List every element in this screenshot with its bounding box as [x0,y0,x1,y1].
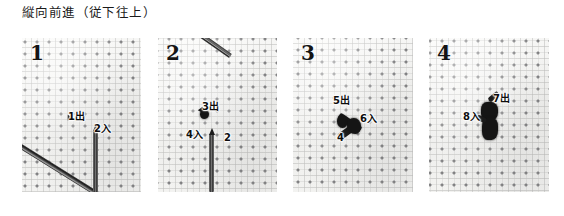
stitch-thread-mass [347,118,361,134]
callout-6-in: 6入 [360,114,377,124]
panel-number-1: 1 [30,43,44,63]
callout-3-out: 3出 [202,102,219,112]
callout-2-ref: 2 [224,133,231,143]
callout-1-out: 1出 [68,112,85,122]
callout-4-in: 4入 [186,130,203,140]
callout-4-ref: 4 [337,133,344,143]
needle-vertical-tip [209,128,215,135]
panel-number-2: 2 [166,43,180,63]
photo-panel-3: 3 5出 6入 4 [293,38,413,192]
panel-strip: 1 1出 2入 2 3出 4入 2 3 5出 6入 4 [0,0,564,216]
photo-panel-1: 1 1出 2入 [22,38,141,192]
panel-number-4: 4 [437,43,451,63]
panel-number-3: 3 [301,43,315,63]
needle-vertical [93,130,98,192]
needle-vertical [209,134,214,192]
callout-5-out: 5出 [333,96,350,106]
callout-7-out: 7出 [493,94,510,104]
callout-8-in: 8入 [463,112,480,122]
photo-panel-2: 2 3出 4入 2 [158,38,277,192]
photo-panel-4: 4 7出 8入 [429,38,549,192]
callout-2-in: 2入 [94,124,111,134]
